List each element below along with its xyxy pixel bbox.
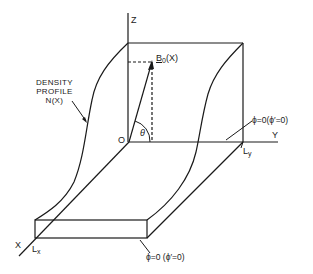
b-vector-argument: (X) (166, 53, 178, 63)
z-axis-label: Z (131, 15, 137, 25)
density-curve-right (147, 43, 243, 220)
density-label-line2: PROFILE (36, 87, 73, 96)
density-profile-label: DENSITY PROFILE N(X) (36, 78, 73, 105)
x-axis-label: X (15, 240, 21, 250)
boundary-right-label: ϕ=0(ϕ′=0) (252, 115, 288, 125)
theta-label: θ (140, 128, 145, 138)
origin-label: O (118, 135, 125, 145)
boundary-right-leader (226, 121, 252, 140)
length-y-label: Ly (243, 146, 252, 159)
y-axis-label: Y (272, 130, 278, 140)
b-vector-label: B0(X) (156, 53, 178, 66)
density-label-line3: N(X) (36, 96, 73, 105)
density-label-line1: DENSITY (36, 78, 73, 87)
boundary-bottom-label: ϕ=0 (ϕ′=0) (146, 252, 185, 262)
density-leader-arrowhead (82, 117, 87, 123)
x-axis (19, 142, 129, 256)
length-y-sub: y (248, 150, 252, 157)
density-curve-left (35, 43, 128, 220)
diagram-canvas (0, 0, 313, 274)
length-x-sub: x (37, 248, 41, 255)
length-x-label: Lx (32, 244, 41, 257)
